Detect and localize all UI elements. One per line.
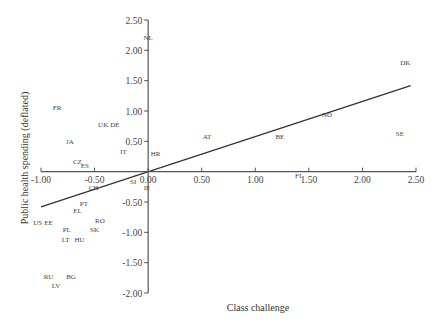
x-tick-label: 2.50 xyxy=(408,175,425,185)
point-label-sk: SK xyxy=(90,226,99,234)
y-tick-label: -0.50 xyxy=(122,198,142,208)
point-label-hr: HR xyxy=(151,150,161,158)
y-tick-label: 2.00 xyxy=(126,46,143,56)
x-tick-label: 2.00 xyxy=(354,175,371,185)
point-label-us: US xyxy=(33,219,42,227)
x-tick-label: 1.50 xyxy=(301,175,318,185)
point-label-de: DE xyxy=(110,121,119,129)
point-label-pl: PL xyxy=(63,226,71,234)
y-tick-label: 1.00 xyxy=(126,107,143,117)
y-tick-label: 0.50 xyxy=(126,137,143,147)
y-tick-label: 1.50 xyxy=(126,76,143,86)
point-label-ja: JA xyxy=(66,138,74,146)
point-label-lt: LT xyxy=(62,236,71,244)
point-label-ro: RO xyxy=(95,217,105,225)
point-label-dk: DK xyxy=(400,59,410,67)
chart-canvas: -1.00-0.500.000.501.001.502.002.502.502.… xyxy=(0,0,439,322)
scatter-chart: -1.00-0.500.000.501.001.502.002.502.502.… xyxy=(0,0,439,322)
x-tick-label: 1.00 xyxy=(247,175,264,185)
point-label-ee: EE xyxy=(44,219,53,227)
point-label-hu: HU xyxy=(75,236,85,244)
point-label-lv: LV xyxy=(52,282,61,290)
y-axis-title: Public health spending (deflated) xyxy=(19,92,31,224)
point-label-ru: RU xyxy=(44,273,54,281)
y-tick-label: 2.50 xyxy=(126,16,143,26)
point-label-fi: FI xyxy=(295,172,302,180)
x-tick-label: 0.50 xyxy=(193,175,210,185)
x-tick-label: -1.00 xyxy=(31,175,51,185)
point-label-ch: CH xyxy=(89,184,99,192)
point-label-es: ES xyxy=(81,162,89,170)
axes: -1.00-0.500.000.501.001.502.002.502.502.… xyxy=(31,16,424,299)
point-label-uk: UK xyxy=(98,121,108,129)
point-label-si: SI xyxy=(130,178,137,186)
point-label-fr: FR xyxy=(53,104,62,112)
point-label-ie: IE xyxy=(144,184,151,192)
y-tick-label: -1.50 xyxy=(122,258,142,268)
point-label-no: NO xyxy=(322,111,332,119)
point-label-nl: NL xyxy=(143,34,152,42)
point-label-at: AT xyxy=(203,133,212,141)
x-axis-title: Class challenge xyxy=(227,302,290,313)
data-point-labels: NLFRUKDEJAITHRATBENODKSEFICZESCHSIIEPTEL… xyxy=(33,34,410,290)
point-label-be: BE xyxy=(275,133,284,141)
y-tick-label: -1.00 xyxy=(122,228,142,238)
point-label-se: SE xyxy=(396,130,404,138)
y-tick-label: -2.00 xyxy=(122,289,142,299)
point-label-el: EL xyxy=(73,207,82,215)
point-label-bg: BG xyxy=(66,273,76,281)
point-label-it: IT xyxy=(120,148,127,156)
